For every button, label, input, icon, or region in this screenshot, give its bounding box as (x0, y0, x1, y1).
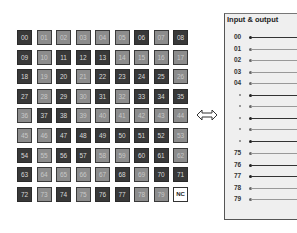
io-line (225, 106, 297, 116)
wire-line (251, 83, 297, 84)
grid-cell: 56 (56, 148, 71, 163)
wire-line (251, 199, 297, 200)
grid-cell: 77 (115, 187, 130, 202)
wire-line (251, 176, 297, 178)
ellipsis-dot-icon (239, 94, 241, 96)
io-line-label: 00 (234, 33, 241, 40)
grid-cell: 19 (37, 69, 52, 84)
grid-cell: 57 (76, 148, 91, 163)
io-line-label: 77 (234, 172, 241, 179)
io-line (225, 95, 297, 105)
io-line (225, 118, 297, 128)
grid-cell: 34 (154, 89, 169, 104)
grid-cell: 22 (95, 69, 110, 84)
grid-cell: 15 (134, 50, 149, 65)
io-line-label: 78 (234, 184, 241, 191)
wire-line (251, 153, 297, 154)
grid-cell: 21 (76, 69, 91, 84)
grid-cell: 12 (76, 50, 91, 65)
grid-cell: 00 (17, 30, 32, 45)
grid-cell: 13 (95, 50, 110, 65)
grid-cell: 02 (56, 30, 71, 45)
ellipsis-dot-icon (239, 140, 241, 142)
grid-cell: 79 (154, 187, 169, 202)
grid-cell: 27 (17, 89, 32, 104)
wire-line (251, 118, 297, 120)
grid-cell: 65 (56, 167, 71, 182)
io-line-label: 02 (234, 56, 241, 63)
grid-cell: 28 (37, 89, 52, 104)
grid-cell: 04 (95, 30, 110, 45)
grid-cell: 67 (95, 167, 110, 182)
grid-cell: 26 (173, 69, 188, 84)
wire-line (251, 129, 297, 130)
wire-line (251, 106, 297, 107)
grid-cell: 11 (56, 50, 71, 65)
grid-cell: 01 (37, 30, 52, 45)
grid-cell: 06 (134, 30, 149, 45)
grid-cell: 10 (37, 50, 52, 65)
grid-cell: 38 (56, 108, 71, 123)
grid-cell: 20 (56, 69, 71, 84)
grid-cell: 62 (173, 148, 188, 163)
grid-cell: 42 (134, 108, 149, 123)
grid-cell: 74 (56, 187, 71, 202)
grid-cell: 31 (95, 89, 110, 104)
wire-line (251, 37, 297, 39)
io-line-label: 01 (234, 45, 241, 52)
io-line-label: 79 (234, 195, 241, 202)
wire-line (251, 141, 297, 143)
wire-line (251, 60, 297, 61)
ellipsis-dot-icon (239, 105, 241, 107)
ellipsis-dot-icon (239, 117, 241, 119)
grid-cell: 44 (173, 108, 188, 123)
grid-cell: 52 (154, 128, 169, 143)
grid-cell: 66 (76, 167, 91, 182)
grid-cell: 16 (154, 50, 169, 65)
grid-cell: 08 (173, 30, 188, 45)
grid-cell: 61 (154, 148, 169, 163)
wire-line (251, 72, 297, 73)
io-line-label: 03 (234, 68, 241, 75)
grid-cell: 60 (134, 148, 149, 163)
electrode-grid: 0001020304050607080910111213141516171819… (17, 30, 188, 202)
double-arrow-icon (196, 109, 218, 121)
grid-cell: 23 (115, 69, 130, 84)
grid-cell: 48 (76, 128, 91, 143)
grid-cell: 75 (76, 187, 91, 202)
grid-cell: 72 (17, 187, 32, 202)
grid-cell: 73 (37, 187, 52, 202)
grid-cell: 50 (115, 128, 130, 143)
grid-cell: 71 (173, 167, 188, 182)
ellipsis-dot-icon (239, 128, 241, 130)
grid-cell: 45 (17, 128, 32, 143)
grid-cell: 29 (56, 89, 71, 104)
wire-line (251, 188, 297, 189)
wire-line (251, 95, 297, 97)
grid-cell: 47 (56, 128, 71, 143)
grid-cell: 58 (95, 148, 110, 163)
grid-cell: 14 (115, 50, 130, 65)
io-line: 04 (225, 83, 297, 93)
grid-cell-nc: NC (173, 187, 188, 202)
grid-cell: 55 (37, 148, 52, 163)
grid-cell: 63 (17, 167, 32, 182)
input-output-panel: Input & output 00010203047576777879 (224, 13, 297, 220)
grid-cell: 40 (95, 108, 110, 123)
grid-cell: 32 (115, 89, 130, 104)
grid-cell: 49 (95, 128, 110, 143)
grid-cell: 09 (17, 50, 32, 65)
grid-cell: 18 (17, 69, 32, 84)
wire-line (251, 165, 297, 167)
grid-cell: 24 (134, 69, 149, 84)
grid-cell: 35 (173, 89, 188, 104)
grid-cell: 64 (37, 167, 52, 182)
grid-cell: 39 (76, 108, 91, 123)
grid-cell: 46 (37, 128, 52, 143)
io-line (225, 129, 297, 139)
grid-cell: 30 (76, 89, 91, 104)
grid-cell: 25 (154, 69, 169, 84)
grid-cell: 59 (115, 148, 130, 163)
grid-cell: 69 (134, 167, 149, 182)
grid-cell: 70 (154, 167, 169, 182)
